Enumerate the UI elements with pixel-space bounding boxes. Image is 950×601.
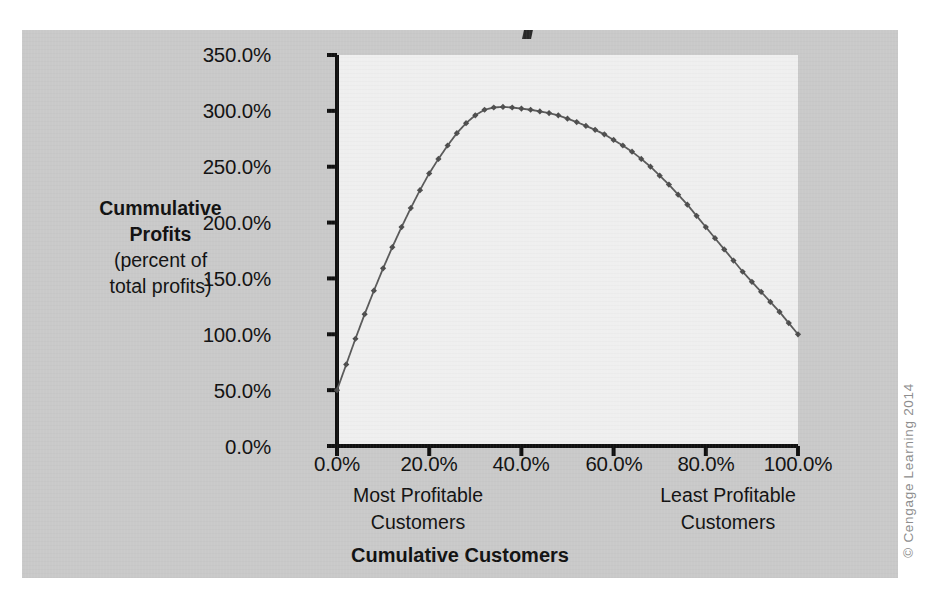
x-axis-note-right-line2: Customers xyxy=(598,509,858,536)
x-axis-note-left-line2: Customers xyxy=(288,509,548,536)
x-axis-title: Cumulative Customers xyxy=(22,544,898,567)
y-axis-title: Cummulative Profits (percent of total pr… xyxy=(68,195,253,299)
copyright-notice: © Cengage Learning 2014 xyxy=(901,383,916,558)
x-axis-note-right-line1: Least Profitable xyxy=(598,482,858,509)
x-axis-note-left: Most Profitable Customers xyxy=(288,482,548,536)
data-series-markers xyxy=(334,104,801,393)
y-axis-title-line1: Cummulative xyxy=(68,195,253,221)
y-axis-title-line2: Profits xyxy=(68,221,253,247)
y-axis-title-line3: (percent of xyxy=(68,247,253,273)
x-axis-note-left-line1: Most Profitable xyxy=(288,482,548,509)
y-axis-title-line4: total profits) xyxy=(68,273,253,299)
x-axis-note-right: Least Profitable Customers xyxy=(598,482,858,536)
data-series-line xyxy=(337,107,798,390)
figure-panel: 350.0% 300.0% 250.0% 200.0% 150.0% 100.0… xyxy=(22,30,898,578)
